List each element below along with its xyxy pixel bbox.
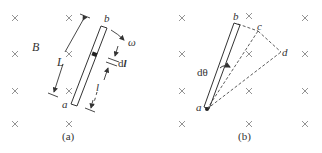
rotation-arrow-icon: [111, 30, 124, 40]
cross-icon: [179, 88, 185, 94]
point-c-label: c: [257, 20, 262, 32]
cross-icon: [66, 121, 72, 127]
cross-icon: [66, 51, 72, 57]
cross-icon: [12, 88, 18, 94]
rod-end-a-label: a: [62, 98, 68, 110]
cross-icon: [302, 15, 308, 21]
cross-icon: [66, 88, 72, 94]
point-d-label: d: [282, 46, 288, 58]
point-a-label: a: [196, 101, 202, 113]
length-dimension: [48, 14, 90, 97]
cross-icon: [179, 51, 185, 57]
caption-b: (b): [238, 130, 251, 143]
point-b-label: b: [233, 10, 239, 22]
cross-icon: [179, 15, 185, 21]
cross-icon: [246, 51, 252, 57]
length-label-L: L: [56, 55, 64, 69]
cross-icon: [246, 88, 252, 94]
cross-icon: [12, 51, 18, 57]
cross-icon: [302, 88, 308, 94]
angle-label: dθ: [197, 66, 208, 78]
caption-a: (a): [62, 130, 75, 143]
dl-label: dl: [118, 57, 128, 69]
rod-end-b-label: b: [104, 12, 110, 24]
cross-icon: [246, 121, 252, 127]
dl-dimension: [104, 46, 119, 80]
distance-label-l: l: [96, 81, 99, 93]
field-crosses-a: [12, 15, 72, 127]
rod-a: [71, 26, 107, 106]
omega-label: ω: [128, 36, 136, 48]
distance-dimension: [85, 92, 97, 112]
field-label-B: B: [32, 40, 40, 54]
cross-icon: [302, 51, 308, 57]
cross-icon: [12, 121, 18, 127]
figure-canvas: B b a L ω dl l (a) b c d a dθ (b): [0, 0, 322, 153]
cross-icon: [179, 121, 185, 127]
cross-icon: [12, 15, 18, 21]
cross-icon: [246, 13, 252, 19]
cross-icon: [66, 15, 72, 21]
cross-icon: [302, 121, 308, 127]
